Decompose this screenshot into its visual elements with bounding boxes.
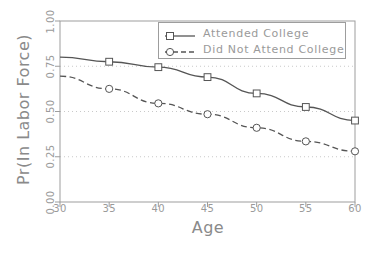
legend-item-did-not-attend-college[interactable]: Did Not Attend College [163,41,344,57]
chart-legend: Attended College Did Not Attend College [158,22,346,59]
x-tick-label-35: 35 [96,203,122,214]
x-axis-title: Age [60,218,356,237]
x-tick-label-30: 30 [47,203,73,214]
data-point [302,138,309,145]
y-axis-ticks [55,21,60,202]
y-axis-title: Pr(In Labor Force) [14,10,33,210]
x-tick-label-55: 55 [293,203,319,214]
data-series-layer [60,57,359,155]
x-tick-label-45: 45 [195,203,221,214]
data-point [155,64,162,71]
series-2 [60,76,359,155]
data-point [302,104,309,111]
legend-item-attended-college[interactable]: Attended College [163,25,309,41]
x-tick-label-60: 60 [342,203,368,214]
y-tick-label-1-00: 1.00 [45,5,56,39]
data-point [106,85,113,92]
data-point [204,74,211,81]
circle-marker-icon [163,43,197,55]
data-point [253,90,260,97]
x-tick-label-40: 40 [145,203,171,214]
square-marker-icon [163,27,197,39]
y-tick-label-0-25: 0.25 [45,140,56,174]
data-point [204,111,211,118]
data-point [155,100,162,107]
legend-label-did-not-attend-college: Did Not Attend College [203,43,344,56]
data-point [351,148,358,155]
data-point [352,117,359,124]
legend-label-attended-college: Attended College [203,27,309,40]
data-point [253,124,260,131]
y-tick-label-0-50: 0.50 [45,95,56,129]
chart-figure: 1.00 0.75 0.50 0.25 0.00 30 35 40 45 50 … [0,0,374,257]
x-tick-label-50: 50 [244,203,270,214]
data-point [106,58,113,65]
y-tick-label-0-75: 0.75 [45,50,56,84]
